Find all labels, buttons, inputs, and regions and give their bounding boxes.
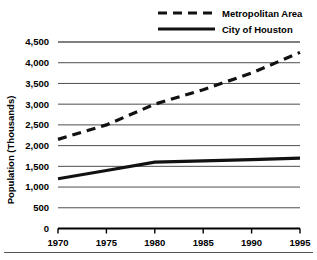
legend-label-city-of-houston: City of Houston bbox=[222, 24, 293, 35]
y-axis-tick-label: 1,500 bbox=[25, 161, 49, 172]
y-axis-tick-label: 3,000 bbox=[25, 99, 49, 110]
legend-label-metropolitan-area: Metropolitan Area bbox=[222, 8, 303, 19]
population-line-chart: 05001,0001,5002,0002,5003,0003,5004,0004… bbox=[0, 0, 317, 260]
x-axis-tick-label: 1970 bbox=[47, 237, 68, 248]
y-axis-tick-label: 4,000 bbox=[25, 57, 49, 68]
y-axis-tick-label: 500 bbox=[33, 202, 49, 213]
y-axis-tick-label: 0 bbox=[44, 223, 49, 234]
x-axis-tick-label: 1980 bbox=[144, 237, 165, 248]
x-axis-tick-label: 1985 bbox=[193, 237, 215, 248]
y-axis-tick-label: 3,500 bbox=[25, 78, 49, 89]
y-axis-tick-label: 2,500 bbox=[25, 119, 49, 130]
y-axis-tick-label: 1,000 bbox=[25, 181, 49, 192]
x-axis-tick-label: 1995 bbox=[289, 237, 311, 248]
y-axis-title: Population (Thousands) bbox=[5, 96, 16, 205]
chart-svg: 05001,0001,5002,0002,5003,0003,5004,0004… bbox=[0, 0, 317, 260]
x-axis-tick-label: 1975 bbox=[96, 237, 118, 248]
y-axis-tick-label: 2,000 bbox=[25, 140, 49, 151]
y-axis-tick-label: 4,500 bbox=[25, 36, 49, 47]
x-axis-tick-label: 1990 bbox=[241, 237, 262, 248]
